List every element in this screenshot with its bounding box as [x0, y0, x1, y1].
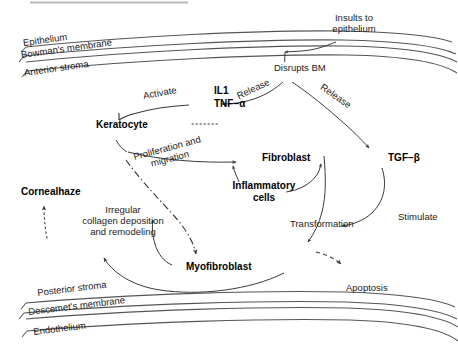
insults-line-2: epithelium [314, 24, 394, 35]
node-corneal-haze: Cornealhaze [21, 186, 80, 198]
edge-label-stimulate: Stimulate [398, 212, 438, 223]
inflammatory-line-1: Inflammatory [228, 180, 300, 192]
node-transformation: Transformation [290, 219, 354, 230]
node-disrupts-bm: Disrupts BM [274, 63, 326, 74]
node-myofibroblast: Myofibroblast [186, 261, 252, 273]
edge-label-collagen-remodeling: Irregular collagen deposition and remode… [62, 205, 184, 238]
arrow-insults-to-epithelium [285, 42, 336, 62]
collagen-line-3: and remodeling [62, 227, 184, 238]
node-tgf-beta: TGF−β [388, 152, 420, 164]
node-tnf-alpha: TNF−α [214, 98, 245, 110]
arrow-apoptosis [316, 252, 341, 264]
arrow-activate [119, 105, 189, 120]
node-keratocyte: Keratocyte [96, 119, 148, 131]
node-fibroblast: Fibroblast [262, 152, 310, 164]
arrow-collagen-to-corneal-haze [44, 206, 47, 238]
node-inflammatory-cells: Inflammatory cells [228, 180, 300, 203]
node-il1: IL1 [214, 85, 228, 97]
cornea-wound-healing-figure: Epithelium Bowman's membrane Anterior st… [0, 0, 458, 358]
node-insults-to-epithelium: Insults to epithelium [314, 13, 394, 35]
node-apoptosis: Apoptosis [346, 283, 388, 294]
inflammatory-line-2: cells [228, 192, 300, 204]
